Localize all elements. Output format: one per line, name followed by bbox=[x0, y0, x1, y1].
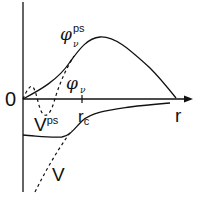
cutoff-subscript: c bbox=[84, 115, 90, 127]
pseudo-wavefunction-curve bbox=[23, 37, 176, 99]
x-axis-label: r bbox=[175, 105, 182, 126]
pseudopotential-diagram: 0 r rc φ ps ν φ ν Vps V bbox=[0, 0, 200, 205]
pseudo-wavefunction-superscript: ps bbox=[73, 22, 85, 34]
all-electron-wavefunction-label: φ bbox=[66, 73, 78, 93]
x-axis-arrow-icon bbox=[184, 96, 193, 103]
origin-label: 0 bbox=[5, 88, 16, 110]
all-electron-wavefunction-subscript: ν bbox=[80, 85, 86, 95]
pseudo-wavefunction-symbol: φ bbox=[60, 24, 72, 44]
pseudopotential-superscript: ps bbox=[47, 114, 59, 126]
pseudo-wavefunction-label: φ bbox=[60, 24, 72, 44]
true-potential-label: V bbox=[52, 164, 65, 185]
pseudo-wavefunction-subscript: ν bbox=[73, 39, 79, 49]
pseudopotential-symbol: V bbox=[34, 114, 47, 135]
pseudopotential-label: Vps bbox=[34, 114, 59, 135]
all-electron-wavefunction-symbol: φ bbox=[66, 73, 78, 93]
cutoff-label: rc bbox=[78, 107, 90, 127]
